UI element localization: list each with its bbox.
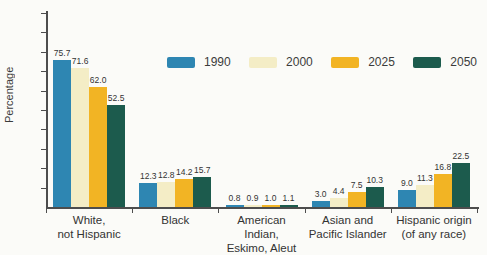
- category-label-line: not Hispanic: [46, 228, 132, 242]
- bar-2000: [157, 182, 175, 207]
- y-axis-title: Percentage: [2, 10, 16, 180]
- x-tick-mark: [46, 209, 47, 213]
- bar-1990: [398, 190, 416, 207]
- value-label: 10.3: [359, 176, 391, 185]
- legend-label: 2025: [368, 55, 395, 69]
- bar-2025: [262, 205, 280, 207]
- legend-label: 1990: [204, 55, 231, 69]
- category-label: Asian andPacific Islander: [305, 214, 391, 242]
- bar-2025: [89, 87, 107, 207]
- bar-2000: [71, 68, 89, 207]
- legend-swatch-1990: [167, 57, 195, 68]
- bar-1990: [312, 201, 330, 207]
- category-label-line: (of any race): [391, 228, 477, 242]
- y-tick-mark: [41, 168, 46, 169]
- y-tick-mark: [41, 149, 46, 150]
- y-tick-mark: [41, 71, 46, 72]
- value-label: 52.5: [100, 94, 132, 103]
- y-tick-mark: [41, 110, 46, 111]
- y-tick-mark: [41, 13, 46, 14]
- x-axis-line: [46, 207, 479, 209]
- value-label: 62.0: [82, 76, 114, 85]
- x-tick-mark: [132, 209, 133, 213]
- bar-2050: [452, 163, 470, 207]
- bar-2050: [280, 205, 298, 207]
- legend-item-1990: 1990: [167, 55, 231, 69]
- bar-1990: [226, 205, 244, 207]
- x-tick-mark: [477, 209, 478, 213]
- y-axis-line: [46, 11, 48, 209]
- x-tick-mark: [305, 209, 306, 213]
- category-label: American Indian,Eskimo, Aleut: [218, 214, 304, 255]
- bar-2000: [330, 198, 348, 207]
- legend-item-2050: 2050: [413, 55, 477, 69]
- legend-item-2025: 2025: [331, 55, 395, 69]
- category-label: Hispanic origin(of any race): [391, 214, 477, 242]
- category-label: Black: [132, 214, 218, 228]
- legend-swatch-2025: [331, 57, 359, 68]
- x-tick-mark: [391, 209, 392, 213]
- bar-1990: [139, 183, 157, 207]
- category-label: White,not Hispanic: [46, 214, 132, 242]
- legend-item-2000: 2000: [249, 55, 313, 69]
- legend-label: 2000: [286, 55, 313, 69]
- bar-2050: [107, 105, 125, 207]
- value-label: 71.6: [64, 57, 96, 66]
- y-tick-mark: [41, 129, 46, 130]
- y-tick-mark: [41, 32, 46, 33]
- bar-2050: [193, 177, 211, 207]
- value-label: 15.7: [186, 166, 218, 175]
- legend-swatch-2000: [249, 57, 277, 68]
- category-label-line: American Indian,: [218, 214, 304, 242]
- y-tick-mark: [41, 91, 46, 92]
- bar-2000: [416, 185, 434, 207]
- category-label-line: Hispanic origin: [391, 214, 477, 228]
- bar-1990: [53, 60, 71, 207]
- value-label: 22.5: [445, 152, 477, 161]
- legend: 1990200020252050: [167, 55, 477, 69]
- category-label-line: Black: [132, 214, 218, 228]
- legend-label: 2050: [450, 55, 477, 69]
- bar-2000: [244, 205, 262, 207]
- bar-2025: [175, 179, 193, 207]
- x-tick-mark: [218, 209, 219, 213]
- bar-2025: [348, 192, 366, 207]
- value-label: 1.1: [273, 194, 305, 203]
- category-label-line: Pacific Islander: [305, 228, 391, 242]
- category-label-line: Eskimo, Aleut: [218, 242, 304, 255]
- y-tick-mark: [41, 188, 46, 189]
- bar-2050: [366, 187, 384, 207]
- legend-swatch-2050: [413, 57, 441, 68]
- category-label-line: White,: [46, 214, 132, 228]
- category-label-line: Asian and: [305, 214, 391, 228]
- bar-2025: [434, 174, 452, 207]
